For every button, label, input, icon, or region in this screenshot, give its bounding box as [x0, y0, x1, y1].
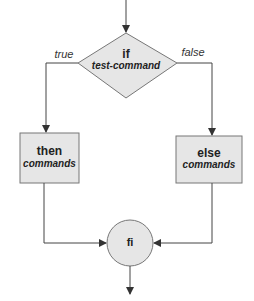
false-branch-arrow: [177, 63, 212, 135]
else-to-fi-arrow: [154, 183, 212, 243]
else-keyword: else: [176, 146, 242, 160]
if-test-command: test-command: [86, 60, 166, 71]
true-branch-arrow: [46, 63, 78, 132]
flowchart-canvas: if test-command true false then commands…: [0, 0, 254, 301]
else-commands: commands: [176, 159, 242, 170]
fi-keyword: fi: [110, 236, 150, 248]
true-label: true: [52, 48, 76, 60]
then-keyword: then: [20, 144, 79, 158]
false-label: false: [178, 46, 208, 58]
then-to-fi-arrow: [44, 183, 106, 243]
then-commands: commands: [20, 158, 79, 169]
if-keyword: if: [96, 47, 156, 61]
